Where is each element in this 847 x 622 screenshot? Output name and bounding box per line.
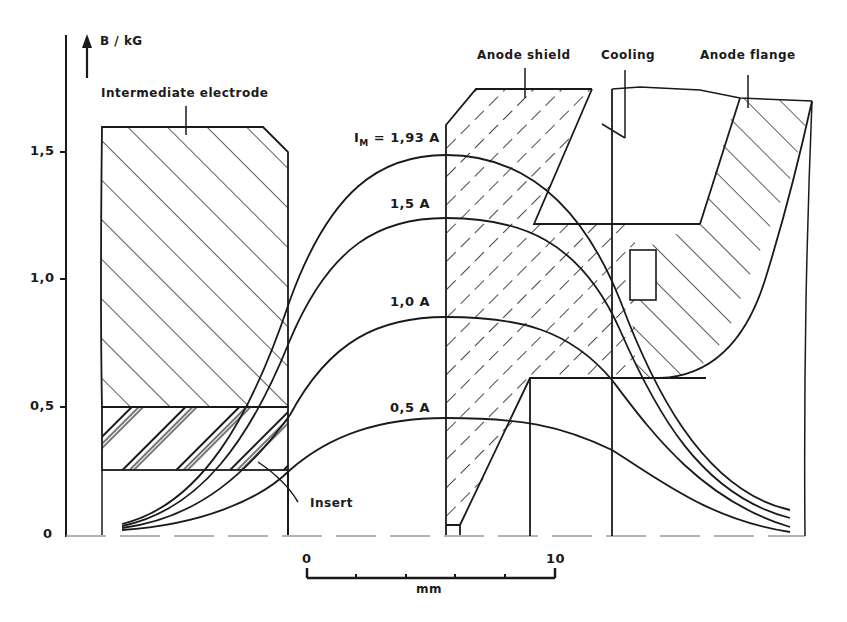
curve-label-sub-m: M	[359, 138, 368, 148]
y-axis-label: B / kG	[100, 34, 143, 48]
scale-bar	[307, 568, 555, 578]
y-tick-0: 0	[43, 526, 53, 541]
y-tick-1-0: 1,0	[30, 270, 55, 285]
curve-label-0-5a: 0,5 A	[390, 400, 430, 415]
label-anode-shield: Anode shield	[477, 48, 571, 62]
label-intermediate-electrode: Intermediate electrode	[101, 86, 268, 100]
anode-flange	[612, 75, 812, 536]
y-tick-1-5: 1,5	[30, 143, 55, 158]
curve-label-1-93a: IM = 1,93 A	[354, 130, 440, 145]
curve-label-value: = 1,93 A	[369, 130, 440, 145]
label-anode-flange: Anode flange	[700, 48, 796, 62]
intermediate-electrode	[101, 106, 288, 535]
scale-bar-end: 10	[546, 551, 565, 566]
scale-bar-start: 0	[302, 551, 312, 566]
curve-label-1-0a: 1,0 A	[390, 294, 430, 309]
scale-bar-unit: mm	[416, 582, 442, 596]
label-insert: Insert	[310, 496, 353, 510]
arrow-up-icon	[82, 34, 92, 78]
curve-label-1-5a: 1,5 A	[390, 196, 430, 211]
label-cooling: Cooling	[601, 48, 655, 62]
y-tick-0-5: 0,5	[30, 398, 55, 413]
y-axis	[60, 35, 66, 537]
